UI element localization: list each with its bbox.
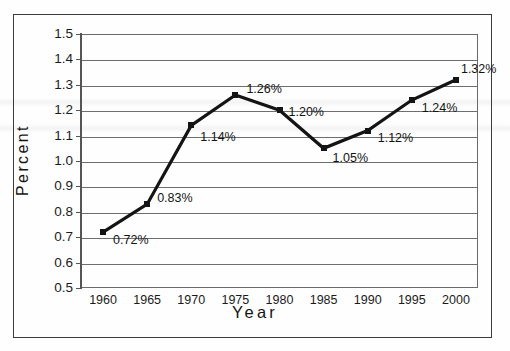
y-axis-tick <box>76 161 81 162</box>
data-point-label: 0.83% <box>157 192 192 205</box>
y-axis-tick <box>76 59 81 60</box>
y-axis-tick-label: 0.5 <box>31 281 73 295</box>
data-point-label: 1.05% <box>333 152 368 165</box>
gridline <box>82 137 477 138</box>
y-axis-tick <box>76 212 81 213</box>
data-point-marker <box>321 145 327 151</box>
y-axis-tick-label: 1.3 <box>31 78 73 92</box>
data-point-marker <box>277 107 283 113</box>
data-point-label: 1.26% <box>246 83 281 96</box>
gridline <box>82 60 477 61</box>
y-axis-tick <box>76 34 81 35</box>
y-axis-tick <box>76 288 81 289</box>
y-axis-tick-label: 0.9 <box>31 179 73 193</box>
data-point-marker <box>453 77 459 83</box>
data-point-marker <box>144 201 150 207</box>
data-point-label: 1.12% <box>378 132 413 145</box>
y-axis-tick <box>76 263 81 264</box>
data-point-marker <box>188 122 194 128</box>
data-point-marker <box>232 92 238 98</box>
y-axis-tick-label: 1.2 <box>31 103 73 117</box>
plot-area <box>81 34 478 288</box>
data-point-marker <box>409 97 415 103</box>
y-axis-tick-label: 1.1 <box>31 129 73 143</box>
data-point-marker <box>365 128 371 134</box>
data-point-label: 1.14% <box>200 131 235 144</box>
y-axis-tick <box>76 237 81 238</box>
y-axis-tick <box>76 85 81 86</box>
y-axis-tick-label: 1.4 <box>31 52 73 66</box>
chart-figure: 1.51.41.31.21.11.00.90.80.70.60.5 196019… <box>0 0 510 351</box>
data-point-label: 1.24% <box>422 102 457 115</box>
y-axis-tick-label: 0.8 <box>31 205 73 219</box>
y-axis-tick-label: 1.0 <box>31 154 73 168</box>
gridline <box>82 213 477 214</box>
y-axis-tick-label: 1.5 <box>31 27 73 41</box>
y-axis-tick-label: 0.6 <box>31 256 73 270</box>
data-point-marker <box>100 229 106 235</box>
y-axis-tick <box>76 110 81 111</box>
data-point-label: 1.32% <box>461 63 496 76</box>
gridline <box>82 162 477 163</box>
gridline <box>82 187 477 188</box>
data-point-label: 0.72% <box>113 234 148 247</box>
gridline <box>82 264 477 265</box>
y-axis-tick-label: 0.7 <box>31 230 73 244</box>
data-point-label: 1.20% <box>289 106 324 119</box>
y-axis-tick <box>76 186 81 187</box>
x-axis-title: Year <box>0 303 510 322</box>
y-axis-tick <box>76 136 81 137</box>
